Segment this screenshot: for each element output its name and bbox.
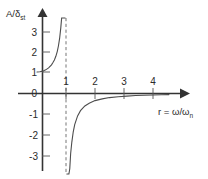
y-axis-tick-labels: 3 2 1 0 -1 -2 -3 — [29, 27, 38, 162]
y-tick-label-0: 0 — [31, 88, 37, 99]
x-tick-label-2: 2 — [92, 76, 98, 87]
x-tick-label-1: 1 — [63, 76, 69, 87]
x-axis-title: r = ω/ωn — [158, 106, 193, 119]
x-axis-tick-labels: 1 2 3 4 — [63, 76, 156, 87]
y-axis-title: A/δst — [6, 8, 26, 21]
y-axis-title-main: A/δ — [6, 8, 20, 19]
y-tick-label-3: 3 — [31, 27, 37, 38]
magnification-factor-chart: 1 2 3 4 3 2 1 0 -1 -2 -3 A/δst r = ω/ωn — [0, 0, 208, 179]
curve-upper-branch — [67, 95, 169, 174]
x-axis-arrow-icon — [180, 89, 190, 99]
x-axis-title-main: r = ω/ω — [158, 106, 190, 117]
x-tick-label-3: 3 — [121, 76, 127, 87]
y-axis-arrow-icon — [38, 8, 48, 17]
data-curves — [37, 18, 169, 174]
y-tick-label-minus-1: -1 — [29, 109, 38, 120]
y-tick-label-minus-3: -3 — [29, 151, 38, 162]
x-axis-title-subscript: n — [189, 112, 193, 119]
y-tick-label-2: 2 — [31, 47, 37, 58]
x-tick-label-4: 4 — [150, 76, 156, 87]
y-tick-label-minus-2: -2 — [29, 130, 38, 141]
curve-lower-branch — [37, 18, 65, 72]
chart-canvas: 1 2 3 4 3 2 1 0 -1 -2 -3 A/δst r = ω/ωn — [0, 0, 208, 179]
y-tick-label-1: 1 — [31, 67, 37, 78]
y-axis-title-subscript: st — [20, 14, 25, 21]
